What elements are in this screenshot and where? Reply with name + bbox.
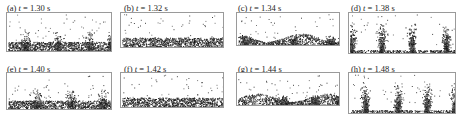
particles xyxy=(349,13,456,54)
particle-plot xyxy=(120,12,224,48)
particles xyxy=(349,73,456,114)
particle-plot xyxy=(6,72,112,110)
particle-plot xyxy=(120,72,224,108)
particles xyxy=(237,73,340,106)
particle-plot xyxy=(236,72,340,106)
particle-plot xyxy=(348,72,456,114)
particle-plot xyxy=(6,12,112,52)
particles xyxy=(7,73,112,110)
particles xyxy=(237,13,340,46)
particles xyxy=(121,73,224,108)
particle-plot xyxy=(348,12,456,54)
particles xyxy=(121,13,224,48)
particle-plot xyxy=(236,12,340,46)
particles xyxy=(7,13,112,52)
